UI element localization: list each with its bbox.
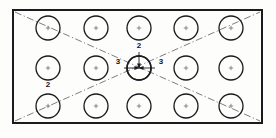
drawing-svg: 2332 bbox=[0, 0, 276, 138]
dimension-label-top: 2 bbox=[137, 41, 142, 50]
technical-drawing-canvas: 2332 bbox=[0, 0, 276, 138]
dimension-label-lower-left: 2 bbox=[46, 80, 51, 89]
dimension-label-right: 3 bbox=[159, 57, 164, 66]
dimension-label-left: 3 bbox=[116, 57, 121, 66]
dimension-label-group: 2332 bbox=[46, 41, 164, 89]
